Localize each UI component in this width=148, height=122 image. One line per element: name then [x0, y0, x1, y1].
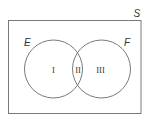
venn-diagram: S E F I II III — [0, 0, 148, 122]
universe-label: S — [134, 8, 141, 19]
region-i-label: I — [52, 65, 55, 75]
set-e-label: E — [24, 37, 31, 48]
region-iii-label: III — [96, 65, 105, 75]
region-ii-label: II — [75, 65, 81, 75]
set-f-label: F — [124, 37, 131, 48]
